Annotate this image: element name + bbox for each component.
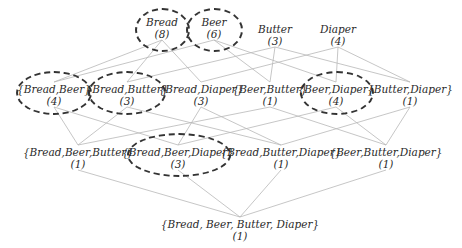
itemset-node-butter: Butter(3): [258, 23, 292, 47]
lattice-edge: [178, 170, 240, 217]
support-count: (3): [159, 95, 244, 107]
itemset-label: Butter: [258, 23, 292, 35]
support-count: (4): [320, 35, 356, 47]
itemset-label: {Bread, Beer, Butter, Diaper}: [161, 218, 319, 230]
itemset-label: Bread: [146, 16, 178, 28]
support-count: (3): [258, 35, 292, 47]
itemset-label: {Beer,Butter,Diaper}: [329, 146, 442, 158]
itemset-node-bread: Bread(8): [146, 16, 178, 40]
support-count: (6): [201, 28, 226, 40]
itemset-label: {Bread,Diaper}: [159, 83, 244, 95]
itemset-label: {Bread,Beer,Diaper}: [122, 146, 234, 158]
support-count: (4): [298, 95, 375, 107]
itemset-node-diaper: Diaper(4): [320, 23, 356, 47]
itemset-node-butter-diaper: {Butter,Diaper}(1): [367, 83, 453, 107]
itemset-label: {Bread,Beer}: [17, 83, 91, 95]
itemset-node-beer-diaper: {Beer,Diaper}(4): [298, 83, 375, 107]
support-count: (4): [17, 95, 91, 107]
support-count: (8): [146, 28, 178, 40]
support-count: (1): [233, 95, 308, 107]
support-count: (3): [122, 158, 234, 170]
support-count: (1): [23, 158, 133, 170]
itemset-label: {Butter,Diaper}: [367, 83, 453, 95]
lattice-edge: [240, 170, 281, 217]
itemset-label: {Bread,Beer,Butter}: [23, 146, 133, 158]
itemset-label: Diaper: [320, 23, 356, 35]
itemset-node-beer-butter-diaper: {Beer,Butter,Diaper}(1): [329, 146, 442, 170]
itemset-label: Beer: [201, 16, 226, 28]
itemset-label: {Bread,Butter}: [86, 83, 169, 95]
support-count: (1): [329, 158, 442, 170]
itemset-label: {Beer,Butter}: [233, 83, 308, 95]
support-count: (1): [367, 95, 453, 107]
itemset-node-bread-butter-diaper: {Bread,Butter,Diaper}(1): [221, 146, 342, 170]
itemset-node-bread-butter: {Bread,Butter}(3): [86, 83, 169, 107]
support-count: (1): [161, 230, 319, 242]
itemset-node-bread-beer-butter: {Bread,Beer,Butter}(1): [23, 146, 133, 170]
itemset-node-bread-diaper: {Bread,Diaper}(3): [159, 83, 244, 107]
itemset-label: {Bread,Butter,Diaper}: [221, 146, 342, 158]
lattice-edge: [240, 170, 386, 217]
itemset-label: {Beer,Diaper}: [298, 83, 375, 95]
lattice-edge: [78, 170, 240, 217]
itemset-node-beer: Beer(6): [201, 16, 226, 40]
itemset-node-bread-beer-diaper: {Bread,Beer,Diaper}(3): [122, 146, 234, 170]
itemset-node-bread-beer: {Bread,Beer}(4): [17, 83, 91, 107]
support-count: (3): [86, 95, 169, 107]
itemset-node-all: {Bread, Beer, Butter, Diaper}(1): [161, 218, 319, 242]
support-count: (1): [221, 158, 342, 170]
itemset-node-beer-butter: {Beer,Butter}(1): [233, 83, 308, 107]
